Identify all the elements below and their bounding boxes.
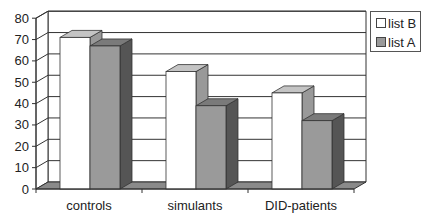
- bar-list-b: [60, 37, 90, 189]
- y-axis: 01020304050607080: [15, 11, 36, 197]
- y-tick-label: 70: [15, 32, 29, 47]
- y-tick-label: 60: [15, 53, 29, 68]
- y-tick-label: 20: [15, 139, 29, 154]
- bar-chart: 01020304050607080 controlssimulantsDID-p…: [0, 0, 434, 220]
- y-tick-label: 10: [15, 160, 29, 175]
- bar-group-controls: [60, 30, 132, 189]
- legend: list Blist A: [371, 12, 421, 52]
- x-category-label: controls: [66, 198, 112, 213]
- bar-list-a: [90, 46, 120, 189]
- legend-swatch-list-a: [377, 38, 386, 47]
- bar-list-b: [272, 93, 302, 189]
- legend-swatch-list-b: [377, 19, 386, 28]
- y-tick-label: 40: [15, 96, 29, 111]
- y-tick-label: 30: [15, 117, 29, 132]
- bar-list-a: [302, 121, 332, 189]
- bar-list-a-side: [120, 39, 132, 189]
- legend-label: list B: [388, 16, 416, 31]
- legend-label: list A: [388, 35, 416, 50]
- y-tick-label: 50: [15, 75, 29, 90]
- y-tick-label: 0: [22, 182, 29, 197]
- bar-list-a-side: [226, 99, 238, 189]
- x-category-label: simulants: [168, 198, 223, 213]
- bar-list-b: [166, 72, 196, 189]
- x-category-label: DID-patients: [265, 198, 338, 213]
- bar-list-a: [196, 106, 226, 189]
- bar-list-a-side: [332, 114, 344, 189]
- y-tick-label: 80: [15, 11, 29, 26]
- x-axis: controlssimulantsDID-patients: [36, 189, 354, 213]
